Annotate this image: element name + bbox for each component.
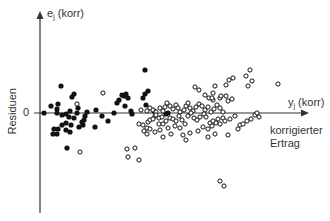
open-data-point (139, 108, 143, 112)
y-axis-label: ej (korr) (47, 7, 84, 23)
open-data-point (276, 82, 280, 86)
open-data-point (226, 133, 230, 137)
open-data-point (125, 147, 129, 151)
open-data-point (151, 117, 155, 121)
open-data-point (204, 115, 208, 119)
filled-data-point (41, 110, 46, 115)
open-data-point (166, 126, 170, 130)
filled-data-point (48, 103, 53, 108)
filled-data-point (66, 114, 71, 119)
open-data-point (161, 135, 165, 139)
open-data-point (231, 76, 235, 80)
open-data-point (213, 132, 217, 136)
filled-data-point (125, 95, 130, 100)
open-data-point (160, 115, 164, 119)
open-data-point (180, 118, 184, 122)
open-data-point (218, 122, 222, 126)
filled-data-point (55, 101, 60, 106)
open-data-point (183, 122, 187, 126)
open-data-point (174, 119, 178, 123)
filled-data-point (142, 67, 147, 72)
open-data-point (169, 132, 173, 136)
open-data-point (197, 88, 201, 92)
filled-data-point (84, 109, 89, 114)
open-data-point (233, 114, 237, 118)
open-data-point (206, 105, 210, 109)
filled-data-point (67, 129, 72, 134)
open-data-point (177, 114, 181, 118)
filled-data-point (92, 124, 97, 129)
open-data-point (248, 68, 252, 72)
open-data-point (224, 94, 228, 98)
filled-data-point (71, 91, 76, 96)
filled-data-point (71, 115, 76, 120)
open-data-point (249, 117, 253, 121)
filled-data-point (105, 118, 110, 123)
filled-data-point (54, 131, 59, 136)
open-data-point (206, 127, 210, 131)
open-data-point (236, 127, 240, 131)
open-data-point (75, 102, 79, 106)
open-data-point (216, 117, 220, 121)
open-data-point (153, 130, 157, 134)
open-data-point (223, 119, 227, 123)
filled-data-point (145, 88, 150, 93)
filled-data-point (93, 107, 98, 112)
x-axis-label: yj (korr) (288, 96, 324, 112)
open-data-point (212, 107, 216, 111)
open-points-series (75, 68, 280, 188)
open-data-point (141, 123, 145, 127)
open-data-point (133, 146, 137, 150)
open-data-point (184, 138, 188, 142)
open-data-point (189, 111, 193, 115)
scatter-plot (0, 0, 330, 221)
open-data-point (210, 124, 214, 128)
open-data-point (213, 84, 217, 88)
open-data-point (206, 135, 210, 139)
open-data-point (201, 125, 205, 129)
open-data-point (218, 179, 222, 183)
open-data-point (230, 97, 234, 101)
open-data-point (228, 117, 232, 121)
filled-data-point (80, 122, 85, 127)
filled-data-point (67, 108, 72, 113)
filled-data-point (116, 97, 121, 102)
filled-data-point (68, 122, 73, 127)
open-data-point (244, 74, 248, 78)
open-data-point (145, 132, 149, 136)
filled-data-point (122, 103, 127, 108)
filled-data-point (64, 145, 69, 150)
open-data-point (126, 155, 130, 159)
open-data-point (246, 84, 250, 88)
open-data-point (196, 129, 200, 133)
open-data-point (101, 91, 105, 95)
open-data-point (257, 115, 261, 119)
open-data-point (224, 83, 228, 87)
open-data-point (218, 106, 222, 110)
open-data-point (164, 119, 168, 123)
open-data-point (171, 107, 175, 111)
y-axis-side-label: Residuen (6, 91, 19, 135)
open-data-point (178, 126, 182, 130)
filled-data-point (129, 111, 134, 116)
open-data-point (193, 85, 197, 89)
filled-data-point (58, 83, 63, 88)
open-data-point (181, 133, 185, 137)
open-data-point (186, 101, 190, 105)
open-data-point (78, 150, 82, 154)
filled-data-point (74, 110, 79, 115)
open-data-point (137, 158, 141, 162)
open-data-point (173, 124, 177, 128)
open-data-point (203, 93, 207, 97)
x-axis-sub-label: korrigierter Ertrag (270, 124, 330, 150)
open-data-point (250, 79, 254, 83)
y-zero-tick-label: 0 (23, 106, 29, 119)
filled-data-point (111, 110, 116, 115)
y-axis-arrow-icon (37, 11, 44, 19)
open-data-point (158, 128, 162, 132)
open-data-point (219, 94, 223, 98)
open-data-point (210, 96, 214, 100)
filled-data-point (99, 113, 104, 118)
filled-data-point (165, 110, 170, 115)
open-data-point (221, 110, 225, 114)
